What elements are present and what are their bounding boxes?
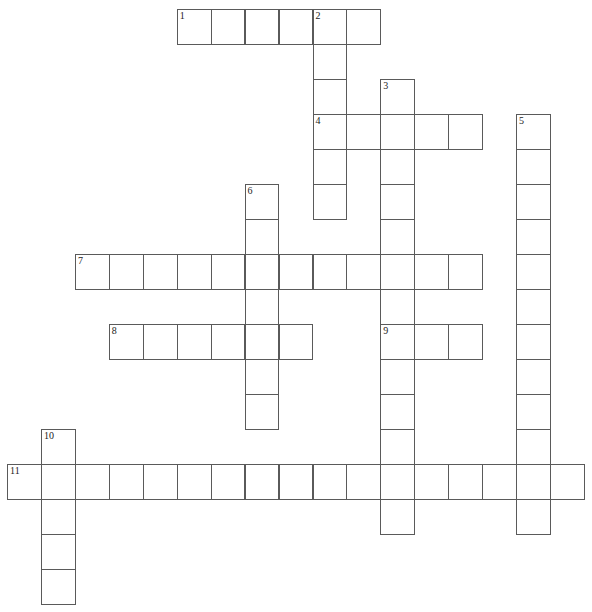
crossword-cell[interactable]	[380, 359, 415, 395]
crossword-cell[interactable]	[482, 464, 517, 500]
crossword-cell[interactable]	[313, 44, 348, 80]
crossword-cell[interactable]	[313, 149, 348, 185]
crossword-cell[interactable]	[380, 184, 415, 220]
crossword-cell[interactable]	[346, 9, 381, 45]
crossword-cell[interactable]: 4	[313, 114, 348, 150]
crossword-cell[interactable]	[279, 254, 314, 290]
crossword-cell[interactable]	[380, 149, 415, 185]
crossword-cell[interactable]	[211, 9, 246, 45]
crossword-cell[interactable]: 9	[380, 324, 415, 360]
crossword-cell[interactable]	[448, 324, 483, 360]
crossword-cell[interactable]	[346, 464, 381, 500]
crossword-cell[interactable]	[346, 114, 381, 150]
crossword-cell[interactable]	[516, 324, 551, 360]
crossword-cell[interactable]	[448, 254, 483, 290]
crossword-grid: 1243956781011	[0, 0, 592, 612]
crossword-cell[interactable]	[75, 464, 110, 500]
crossword-cell[interactable]	[516, 359, 551, 395]
crossword-cell[interactable]	[516, 149, 551, 185]
crossword-cell[interactable]	[279, 9, 314, 45]
crossword-cell[interactable]	[516, 219, 551, 255]
crossword-cell[interactable]	[143, 254, 178, 290]
crossword-cell[interactable]	[380, 254, 415, 290]
crossword-cell[interactable]	[245, 254, 280, 290]
crossword-cell[interactable]: 6	[245, 184, 280, 220]
crossword-cell[interactable]	[313, 464, 348, 500]
crossword-cell[interactable]	[516, 254, 551, 290]
crossword-cell[interactable]	[211, 324, 246, 360]
crossword-cell[interactable]	[313, 79, 348, 115]
crossword-cell[interactable]: 8	[109, 324, 144, 360]
clue-number: 4	[316, 115, 321, 127]
crossword-cell[interactable]: 5	[516, 114, 551, 150]
crossword-cell[interactable]	[177, 254, 212, 290]
crossword-cell[interactable]	[516, 289, 551, 325]
crossword-cell[interactable]	[245, 394, 280, 430]
clue-number: 5	[519, 115, 524, 127]
crossword-cell[interactable]	[346, 254, 381, 290]
crossword-cell[interactable]	[211, 254, 246, 290]
crossword-cell[interactable]	[279, 324, 314, 360]
crossword-cell[interactable]	[313, 184, 348, 220]
crossword-cell[interactable]	[550, 464, 585, 500]
crossword-cell[interactable]	[380, 394, 415, 430]
crossword-cell[interactable]	[177, 324, 212, 360]
crossword-cell[interactable]	[313, 254, 348, 290]
crossword-cell[interactable]	[41, 569, 76, 605]
crossword-cell[interactable]	[414, 464, 449, 500]
crossword-cell[interactable]	[211, 464, 246, 500]
crossword-cell[interactable]: 7	[75, 254, 110, 290]
clue-number: 11	[10, 465, 20, 477]
crossword-cell[interactable]	[109, 254, 144, 290]
crossword-cell[interactable]	[109, 464, 144, 500]
crossword-cell[interactable]	[177, 464, 212, 500]
crossword-cell[interactable]: 3	[380, 79, 415, 115]
crossword-cell[interactable]	[279, 464, 314, 500]
crossword-cell[interactable]	[380, 499, 415, 535]
clue-number: 6	[248, 185, 253, 197]
crossword-cell[interactable]	[41, 464, 76, 500]
crossword-cell[interactable]	[380, 289, 415, 325]
crossword-cell[interactable]	[516, 464, 551, 500]
crossword-cell[interactable]	[245, 289, 280, 325]
crossword-cell[interactable]	[516, 394, 551, 430]
clue-number: 3	[383, 80, 388, 92]
crossword-cell[interactable]	[414, 114, 449, 150]
crossword-cell[interactable]	[245, 219, 280, 255]
crossword-cell[interactable]	[380, 219, 415, 255]
crossword-cell[interactable]	[245, 324, 280, 360]
crossword-cell[interactable]	[245, 9, 280, 45]
crossword-cell[interactable]	[245, 464, 280, 500]
crossword-cell[interactable]	[143, 324, 178, 360]
crossword-cell[interactable]	[41, 499, 76, 535]
crossword-cell[interactable]	[41, 534, 76, 570]
crossword-cell[interactable]: 1	[177, 9, 212, 45]
crossword-cell[interactable]: 11	[7, 464, 42, 500]
crossword-cell[interactable]: 2	[313, 9, 348, 45]
clue-number: 1	[180, 10, 185, 22]
clue-number: 2	[316, 10, 321, 22]
clue-number: 8	[112, 325, 117, 337]
crossword-cell[interactable]	[448, 114, 483, 150]
crossword-cell[interactable]	[380, 464, 415, 500]
crossword-cell[interactable]	[380, 114, 415, 150]
clue-number: 10	[44, 430, 54, 442]
clue-number: 9	[383, 325, 388, 337]
crossword-cell[interactable]	[143, 464, 178, 500]
crossword-cell[interactable]	[516, 184, 551, 220]
crossword-cell[interactable]	[448, 464, 483, 500]
crossword-cell[interactable]	[245, 359, 280, 395]
crossword-cell[interactable]: 10	[41, 429, 76, 465]
crossword-cell[interactable]	[516, 429, 551, 465]
crossword-cell[interactable]	[516, 499, 551, 535]
clue-number: 7	[78, 255, 83, 267]
crossword-cell[interactable]	[414, 254, 449, 290]
crossword-cell[interactable]	[414, 324, 449, 360]
crossword-cell[interactable]	[380, 429, 415, 465]
